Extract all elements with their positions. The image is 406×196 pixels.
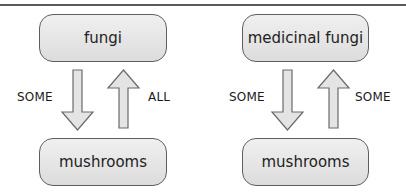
up-arrow-label: ALL <box>148 90 170 104</box>
node-mushrooms: mushrooms <box>39 138 167 186</box>
down-arrow-icon <box>62 70 94 132</box>
down-arrow-label: SOME <box>229 90 265 104</box>
node-label: medicinal fungi <box>248 29 364 47</box>
node-mushrooms: mushrooms <box>242 138 369 186</box>
up-arrow-icon <box>318 70 350 130</box>
up-arrow-icon <box>108 70 140 130</box>
top-rule <box>0 4 406 6</box>
node-fungi: fungi <box>39 14 167 62</box>
up-arrow-label: SOME <box>355 90 391 104</box>
node-label: mushrooms <box>261 153 349 171</box>
node-label: mushrooms <box>59 153 147 171</box>
down-arrow-label: SOME <box>17 90 53 104</box>
node-label: fungi <box>84 29 122 47</box>
down-arrow-icon <box>272 70 304 132</box>
node-medicinal-fungi: medicinal fungi <box>242 14 369 62</box>
